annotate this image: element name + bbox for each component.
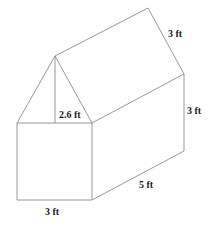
label-length: 5 ft — [139, 179, 154, 190]
back-roof-edge — [148, 8, 184, 74]
ridge-edge — [55, 8, 148, 56]
label-wall-height: 3 ft — [187, 105, 202, 116]
label-triangle-height: 2.6 ft — [59, 109, 81, 120]
front-left-roof-edge — [17, 56, 55, 123]
bottom-side-edge — [92, 151, 184, 200]
label-width: 3 ft — [45, 206, 60, 217]
house-diagram: 3 ft 3 ft 5 ft 3 ft 2.6 ft — [0, 0, 211, 226]
eave-edge — [92, 74, 184, 123]
diagram-svg: 3 ft 3 ft 5 ft 3 ft 2.6 ft — [0, 0, 211, 226]
label-roof-slant: 3 ft — [168, 28, 183, 39]
